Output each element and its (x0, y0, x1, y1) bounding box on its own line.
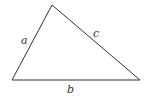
side-a-line (12, 5, 52, 80)
side-a-label: a (21, 34, 28, 47)
triangle-diagram: a c b (0, 0, 151, 97)
side-b-label: b (67, 83, 74, 96)
side-c-label: c (93, 27, 99, 40)
side-c-line (52, 5, 140, 80)
